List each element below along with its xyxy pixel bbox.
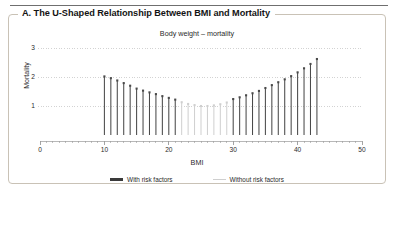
svg-text:0: 0 xyxy=(38,146,42,153)
legend-item-with-risk-factors: With risk factors xyxy=(110,176,172,183)
svg-text:3: 3 xyxy=(31,44,35,51)
svg-text:50: 50 xyxy=(358,146,366,153)
x-axis-label: BMI xyxy=(0,158,394,167)
x-axis xyxy=(40,141,362,145)
legend-swatch-icon xyxy=(110,178,123,180)
legend-label: Without risk factors xyxy=(230,176,284,183)
series-without-risk-factors xyxy=(181,101,228,135)
svg-text:40: 40 xyxy=(294,146,302,153)
chart-legend: With risk factors Without risk factors xyxy=(0,176,394,183)
svg-text:20: 20 xyxy=(165,146,173,153)
svg-text:30: 30 xyxy=(230,146,238,153)
y-axis-tick-labels: 123 xyxy=(31,44,35,109)
grid-lines xyxy=(38,48,362,106)
legend-swatch-icon xyxy=(213,179,226,180)
y-axis-label: Mortality xyxy=(23,46,30,106)
svg-text:1: 1 xyxy=(31,102,35,109)
svg-text:2: 2 xyxy=(31,73,35,80)
svg-text:10: 10 xyxy=(101,146,109,153)
legend-item-without-risk-factors: Without risk factors xyxy=(213,176,284,183)
x-axis-tick-labels: 01020304050 xyxy=(38,146,366,153)
legend-label: With risk factors xyxy=(127,176,172,183)
series-with-risk-factors xyxy=(103,58,318,135)
